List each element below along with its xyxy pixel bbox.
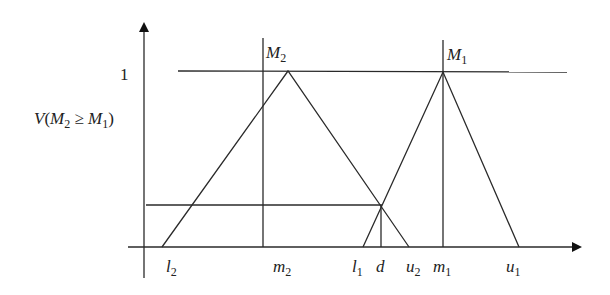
x-label-l2: l2 <box>166 257 177 279</box>
y-axis-label: V(M2 ≥ M1) <box>34 109 114 131</box>
x-label-u1: u1 <box>506 257 521 279</box>
x-label-d: d <box>376 257 385 276</box>
membership-one-line <box>178 71 567 72</box>
peak-label-M2: M2 <box>265 43 286 65</box>
x-label-m2: m2 <box>273 257 291 279</box>
y-tick-one: 1 <box>120 65 129 84</box>
x-label-m1: m1 <box>433 257 451 279</box>
peak-label-M1: M1 <box>446 45 467 67</box>
x-label-u2: u2 <box>406 257 421 279</box>
x-label-l1: l1 <box>352 257 363 279</box>
fuzzy-comparison-diagram: 1 V(M2 ≥ M1) M2 M1 l2 m2 l1 d u2 m1 u1 <box>0 0 610 295</box>
triangle-M2 <box>162 71 409 247</box>
triangle-M1 <box>363 72 519 247</box>
